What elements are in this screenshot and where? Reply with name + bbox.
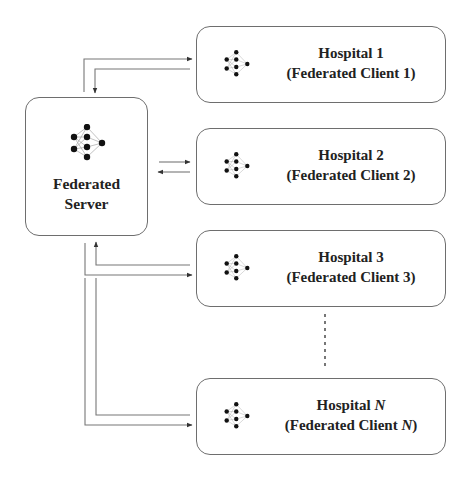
arrow-server-to-client-1: [84, 59, 192, 92]
arrow-client-3-to-server: [96, 242, 190, 265]
arrow-client-1-to-server: [95, 69, 190, 93]
client-box-n: Hospital N (Federated Client N): [196, 378, 446, 455]
neural-network-icon: [222, 152, 252, 180]
neural-network-icon: [222, 402, 252, 430]
federated-learning-diagram: Federated Server Hospital 1 (Federated C…: [0, 0, 475, 481]
client-box-1: Hospital 1 (Federated Client 1): [196, 26, 446, 103]
client-subtitle: (Federated Client 2): [257, 165, 445, 185]
arrow-server-to-client-3: [85, 243, 192, 275]
arrow-server-to-client-n: [85, 278, 192, 425]
client-name: Hospital 1: [257, 43, 445, 63]
client-name: Hospital 3: [257, 247, 445, 267]
neural-network-icon: [222, 50, 252, 78]
client-box-2: Hospital 2 (Federated Client 2): [196, 128, 446, 205]
client-name: Hospital 2: [257, 145, 445, 165]
neural-network-icon: [222, 254, 252, 282]
server-label-line1: Federated: [26, 174, 147, 194]
federated-server-box: Federated Server: [25, 97, 148, 236]
client-label-3: Hospital 3 (Federated Client 3): [257, 247, 445, 287]
client-subtitle: (Federated Client 1): [257, 63, 445, 83]
client-label-1: Hospital 1 (Federated Client 1): [257, 43, 445, 83]
server-label-line2: Server: [26, 194, 147, 214]
arrow-client-n-to-server: [96, 278, 190, 415]
client-name: Hospital N: [257, 395, 445, 415]
client-subtitle: (Federated Client N): [257, 415, 445, 435]
client-subtitle: (Federated Client 3): [257, 267, 445, 287]
client-label-n: Hospital N (Federated Client N): [257, 395, 445, 435]
neural-network-icon: [70, 124, 106, 162]
client-box-3: Hospital 3 (Federated Client 3): [196, 230, 446, 307]
client-label-2: Hospital 2 (Federated Client 2): [257, 145, 445, 185]
server-label: Federated Server: [26, 174, 147, 214]
